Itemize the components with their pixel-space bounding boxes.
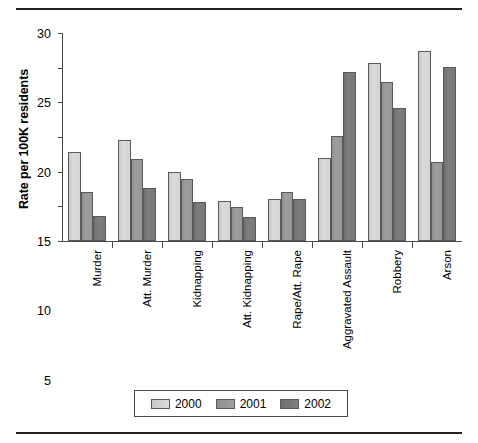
bar [218,201,230,241]
x-axis-tick [112,241,113,248]
y-axis-title: Rate per 100K residents [17,29,31,249]
legend-swatch-2001 [216,399,235,409]
bar [131,159,143,242]
x-axis-category-label: Aggravated Assault [342,250,354,349]
y-axis-tick-label: 20 [37,166,51,179]
x-axis-category-label: Rape/Att. Rape [292,250,304,329]
x-axis-category-label: Att. Kidnapping [242,250,254,328]
legend-label: 2001 [240,398,267,410]
bar [181,179,193,241]
x-axis-tick [162,241,163,248]
legend-item: 2001 [216,398,267,410]
bar-chart-figure: Rate per 100K residents 051015202530 Mur… [0,12,478,432]
bar [318,158,330,241]
bar [193,202,205,241]
top-horizontal-rule [16,8,462,10]
bar [431,162,443,241]
legend-item: 2000 [151,398,202,410]
x-axis-tick [362,241,363,248]
bar [293,199,305,241]
bar [343,72,355,241]
y-axis-tick-label: 25 [37,97,51,110]
bar [368,63,380,241]
y-axis-tick-label: 10 [37,305,51,318]
x-axis-tick [412,241,413,248]
bar [168,172,180,241]
legend-swatch-2000 [151,399,170,409]
x-axis-tick [212,241,213,248]
bar [81,192,93,241]
chart-legend: 2000 2001 2002 [134,390,348,417]
bar [393,108,405,241]
bars-layer [62,33,462,241]
bar [268,199,280,241]
y-axis-tick-label: 30 [37,28,51,41]
x-axis-category-label: Robbery [392,250,404,293]
bottom-horizontal-rule [16,432,462,434]
legend-swatch-2002 [280,399,299,409]
bar [443,67,455,241]
bar [281,192,293,241]
bar [118,140,130,241]
x-axis-tick [312,241,313,248]
y-axis-tick-label: 15 [37,236,51,249]
x-axis-category-label: Kidnapping [192,250,204,308]
bar [381,82,393,241]
legend-label: 2002 [304,398,331,410]
y-axis-tick-label: 5 [44,374,51,387]
x-axis-category-label: Murder [92,250,104,286]
bar [418,51,430,241]
bar [231,207,243,241]
x-axis-category-labels: MurderAtt. MurderKidnappingAtt. Kidnappi… [62,250,462,370]
x-axis-category-label: Att. Murder [142,250,154,307]
bar [68,152,80,241]
legend-label: 2000 [175,398,202,410]
legend-item: 2002 [280,398,331,410]
x-axis-category-label: Arson [442,250,454,280]
bar [243,217,255,241]
x-axis-tick [262,241,263,248]
bar [143,188,155,241]
bar [93,216,105,241]
bar [331,136,343,241]
